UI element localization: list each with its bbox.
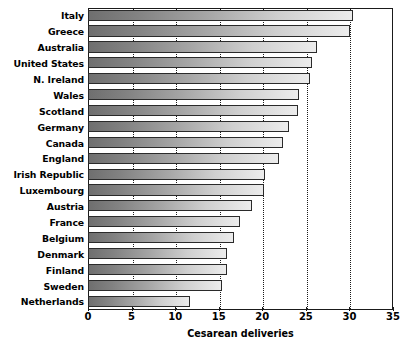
- bars-container: [88, 8, 393, 310]
- bar-row: [88, 56, 393, 72]
- bar-row: [88, 262, 393, 278]
- bar-sweden: [88, 280, 222, 291]
- bar-luxembourg: [88, 184, 264, 195]
- category-label: Scotland: [0, 103, 84, 119]
- bar-irish-republic: [88, 169, 265, 180]
- category-label: Italy: [0, 8, 84, 24]
- bar-row: [88, 278, 393, 294]
- bar-row: [88, 87, 393, 103]
- bar-row: [88, 72, 393, 88]
- tick-label: 25: [299, 311, 313, 322]
- bar-united-states: [88, 57, 312, 68]
- bar-n-ireland: [88, 73, 310, 84]
- bar-row: [88, 199, 393, 215]
- category-label: Irish Republic: [0, 167, 84, 183]
- bar-belgium: [88, 232, 234, 243]
- category-label: France: [0, 215, 84, 231]
- tick-label: 15: [212, 311, 226, 322]
- category-label: Sweden: [0, 278, 84, 294]
- bar-germany: [88, 121, 289, 132]
- bar-row: [88, 151, 393, 167]
- x-axis-title: Cesarean deliveries: [88, 328, 393, 339]
- category-label: Luxembourg: [0, 183, 84, 199]
- bar-row: [88, 246, 393, 262]
- category-label: Canada: [0, 135, 84, 151]
- bar-row: [88, 135, 393, 151]
- bar-australia: [88, 41, 317, 52]
- tick-label: 5: [128, 311, 135, 322]
- category-label: N. Ireland: [0, 72, 84, 88]
- bar-row: [88, 183, 393, 199]
- bar-wales: [88, 89, 299, 100]
- bar-row: [88, 167, 393, 183]
- bar-row: [88, 40, 393, 56]
- tick-label: 35: [386, 311, 400, 322]
- bar-england: [88, 153, 279, 164]
- bar-scotland: [88, 105, 298, 116]
- bar-denmark: [88, 248, 227, 259]
- category-axis-labels: ItalyGreeceAustraliaUnited StatesN. Irel…: [0, 8, 84, 310]
- category-label: Germany: [0, 119, 84, 135]
- tick-label: 30: [342, 311, 356, 322]
- category-label: Greece: [0, 24, 84, 40]
- category-label: Wales: [0, 87, 84, 103]
- value-axis-ticks: 05101520253035: [88, 311, 393, 327]
- bar-row: [88, 103, 393, 119]
- bar-netherlands: [88, 296, 190, 307]
- bar-italy: [88, 10, 353, 21]
- bar-row: [88, 230, 393, 246]
- category-label: Belgium: [0, 230, 84, 246]
- bar-row: [88, 24, 393, 40]
- cesarean-deliveries-bar-chart: ItalyGreeceAustraliaUnited StatesN. Irel…: [0, 0, 409, 354]
- bar-row: [88, 215, 393, 231]
- tick-label: 0: [85, 311, 92, 322]
- category-label: England: [0, 151, 84, 167]
- bar-row: [88, 119, 393, 135]
- bar-greece: [88, 25, 350, 36]
- bar-row: [88, 8, 393, 24]
- category-label: Netherlands: [0, 294, 84, 310]
- category-label: Denmark: [0, 246, 84, 262]
- bar-france: [88, 216, 240, 227]
- bar-canada: [88, 137, 283, 148]
- tick-label: 10: [168, 311, 182, 322]
- tick-label: 20: [255, 311, 269, 322]
- bar-austria: [88, 200, 252, 211]
- category-label: Finland: [0, 262, 84, 278]
- bar-finland: [88, 264, 227, 275]
- category-label: Australia: [0, 40, 84, 56]
- bar-row: [88, 294, 393, 310]
- category-label: United States: [0, 56, 84, 72]
- category-label: Austria: [0, 199, 84, 215]
